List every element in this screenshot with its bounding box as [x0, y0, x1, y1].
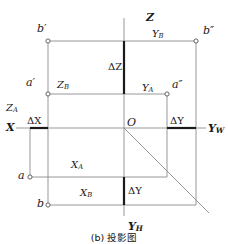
dim-label-delta-z: ΔZ	[108, 62, 122, 72]
dim-label-delta-y-bottom: ΔY	[128, 186, 142, 196]
marker-b-prime	[46, 39, 50, 43]
point-label-b: b	[37, 198, 44, 209]
projection-diagram: Z X YW YH b′ b″ a′ a″ O a b YB ZB ΔZ YA …	[0, 0, 228, 244]
dim-label-delta-y-right: ΔY	[170, 116, 184, 126]
marker-a-prime	[46, 92, 50, 96]
dim-label-yb: YB	[152, 29, 164, 40]
marker-a-double-prime	[165, 92, 169, 96]
dim-label-zb: ZB	[57, 80, 69, 91]
dim-label-za: ZA	[6, 103, 18, 114]
figure-caption: (b) 投影图	[0, 230, 228, 244]
point-label-b-prime: b′	[37, 23, 47, 34]
point-label-origin: O	[127, 117, 136, 128]
point-label-a-prime: a′	[26, 77, 35, 88]
marker-b	[46, 203, 50, 207]
dim-label-delta-x: ΔX	[27, 116, 41, 126]
point-label-a: a	[18, 170, 25, 181]
point-label-b-double-prime: b″	[203, 25, 214, 36]
point-label-a-double-prime: a″	[172, 79, 183, 90]
axis-label-z: Z	[146, 12, 154, 23]
marker-a	[28, 175, 32, 179]
dim-label-ya: YA	[142, 83, 154, 94]
marker-b-double-prime	[194, 39, 198, 43]
dim-label-xb: XB	[80, 188, 92, 199]
axis-label-x: X	[6, 122, 15, 133]
dim-label-xa: XA	[71, 160, 83, 171]
axis-label-yw: YW	[208, 123, 224, 135]
